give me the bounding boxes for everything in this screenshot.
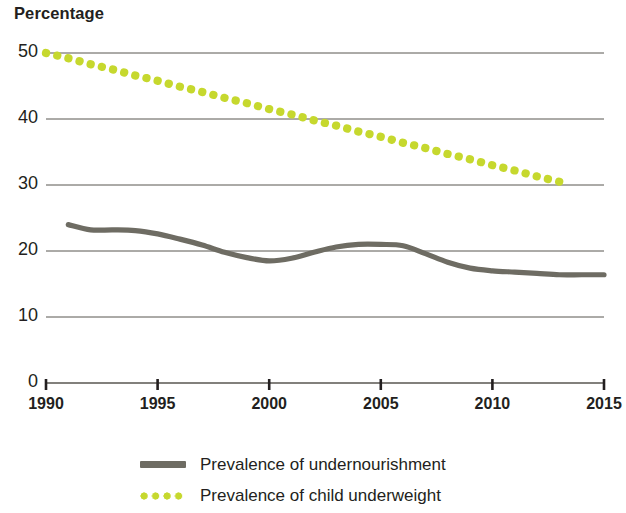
x-tick-label-2000: 2000 [229, 395, 309, 413]
series-line-0 [68, 225, 604, 275]
x-tick-label-1990: 1990 [6, 395, 86, 413]
gridlines-group [46, 53, 604, 383]
y-tick-label-10: 10 [2, 305, 38, 326]
series-line-1 [46, 53, 559, 182]
y-tick-label-20: 20 [2, 239, 38, 260]
data-series-group [46, 53, 604, 275]
legend-item-child-underweight[interactable]: Prevalence of child underweight [140, 480, 610, 511]
legend-label-child-underweight: Prevalence of child underweight [200, 486, 441, 506]
x-tick-label-1995: 1995 [118, 395, 198, 413]
solid-line-swatch-icon [140, 458, 186, 472]
x-axis-ticks-group [46, 379, 604, 390]
y-tick-label-30: 30 [2, 173, 38, 194]
y-tick-label-0: 0 [2, 371, 38, 392]
y-tick-label-40: 40 [2, 107, 38, 128]
dotted-line-swatch-icon [140, 489, 186, 503]
legend-label-undernourishment: Prevalence of undernourishment [200, 455, 446, 475]
x-tick-label-2005: 2005 [341, 395, 421, 413]
x-tick-label-2010: 2010 [452, 395, 532, 413]
legend-item-undernourishment[interactable]: Prevalence of undernourishment [140, 449, 610, 480]
chart-plot-area [0, 0, 626, 513]
y-tick-label-50: 50 [2, 41, 38, 62]
chart-legend: Prevalence of undernourishment Prevalenc… [140, 449, 610, 511]
x-tick-label-2015: 2015 [564, 395, 626, 413]
chart-container: Percentage 50403020100 19901995200020052… [0, 0, 626, 513]
